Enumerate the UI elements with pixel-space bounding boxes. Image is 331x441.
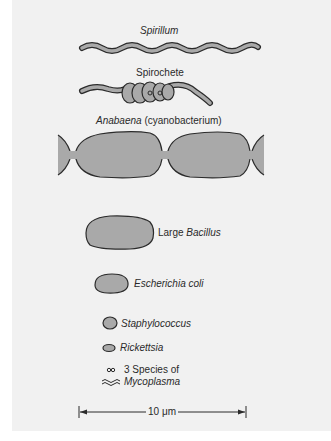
spirillum-label: Spirillum (140, 25, 178, 36)
mycoplasma-shape (102, 368, 120, 385)
e-coli-label: Escherichia coli (134, 278, 203, 289)
rickettsia-label: Rickettsia (120, 342, 163, 353)
large-bacillus-shape (86, 216, 154, 249)
rickettsia-shape (103, 345, 115, 352)
large-bacillus-prefix: Large (158, 227, 186, 238)
anabaena-label: Anabaena (cyanobacterium) (96, 115, 222, 126)
spirochete-shape (82, 82, 210, 103)
anabaena-name: Anabaena (96, 115, 142, 126)
spirochete-label: Spirochete (136, 67, 184, 78)
anabaena-suffix: (cyanobacterium) (142, 115, 222, 126)
e-coli-shape (95, 274, 128, 293)
mycoplasma-label-line2: Mycoplasma (124, 376, 180, 387)
staphylococcus-shape (103, 317, 117, 329)
mycoplasma-label-line1: 3 Species of (124, 364, 179, 375)
large-bacillus-name: Bacillus (186, 227, 220, 238)
staphylococcus-label: Staphylococcus (121, 318, 191, 329)
large-bacillus-label: Large Bacillus (158, 227, 221, 238)
scale-bar-label: 10 μm (148, 406, 176, 417)
anabaena-shape (58, 132, 264, 178)
